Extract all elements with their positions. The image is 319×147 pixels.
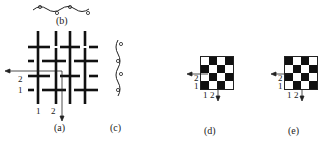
panel-e-row-label-1: 1 bbox=[278, 82, 283, 91]
panel-e-col-label-2: 2 bbox=[294, 91, 299, 100]
panel-e-arrows bbox=[0, 0, 319, 147]
panel-e-col-label-1: 1 bbox=[287, 91, 292, 100]
panel-e-label: (e) bbox=[288, 126, 299, 136]
